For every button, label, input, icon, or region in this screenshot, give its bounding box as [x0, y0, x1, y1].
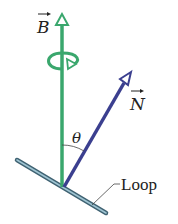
field-arrowhead-icon	[56, 14, 68, 25]
normal-label: N	[129, 89, 146, 114]
field-vector	[49, 14, 78, 187]
svg-text:N: N	[129, 94, 146, 114]
angle-label: θ	[72, 129, 81, 147]
diagram-canvas: B N θ Loop	[0, 0, 178, 224]
field-label: B	[36, 12, 51, 37]
svg-text:B: B	[36, 17, 50, 37]
loop-label: Loop	[121, 175, 157, 194]
loop-leader-line	[92, 184, 120, 205]
normal-arrowhead-icon	[120, 72, 131, 85]
